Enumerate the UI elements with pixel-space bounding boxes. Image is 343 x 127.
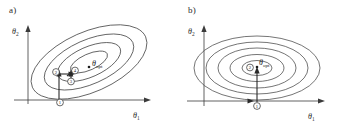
contour-level-3 bbox=[36, 22, 142, 101]
contour-figure: a) θ2 θ1 bbox=[0, 0, 343, 127]
panel-b-tag: b) bbox=[188, 5, 196, 15]
y-axis-label: θ2 bbox=[12, 27, 19, 37]
panel-b-search-path bbox=[248, 67, 260, 104]
step-marker-2: 2 bbox=[53, 69, 60, 76]
y-axis-arrowhead bbox=[201, 25, 206, 32]
step-marker-4: 4 bbox=[72, 67, 79, 74]
optimum-label: θopt bbox=[92, 59, 103, 69]
x-axis-label: θ1 bbox=[133, 111, 140, 121]
x-axis-path-arrowhead bbox=[248, 99, 255, 104]
panel-a-tag: a) bbox=[9, 5, 16, 15]
panel-b-plot: θ2 θ1 1 2 θopt bbox=[171, 0, 343, 127]
optimum-label: θopt bbox=[259, 58, 270, 68]
step-marker-1: 1 bbox=[57, 99, 64, 106]
contour-level-4 bbox=[20, 9, 158, 114]
y-axis-label: θ2 bbox=[188, 27, 195, 37]
panel-a: a) θ2 θ1 bbox=[0, 0, 172, 127]
optimum-dot bbox=[256, 66, 259, 69]
x-axis-label: θ1 bbox=[308, 112, 315, 122]
step-marker-2: 2 bbox=[247, 64, 254, 71]
panel-a-plot: θ2 θ1 1 2 bbox=[0, 0, 172, 127]
contour-level-2 bbox=[52, 34, 126, 89]
x-axis-arrowhead bbox=[144, 97, 151, 102]
optimum-dot bbox=[88, 66, 91, 69]
panel-b: b) θ2 θ1 bbox=[171, 0, 343, 127]
panel-a-axes bbox=[14, 25, 151, 104]
y-axis-arrowhead bbox=[25, 25, 30, 32]
panel-a-contours bbox=[20, 9, 158, 114]
x-axis-arrowhead bbox=[318, 98, 325, 103]
step-marker-1: 1 bbox=[254, 103, 261, 110]
step-marker-3: 3 bbox=[68, 78, 75, 85]
